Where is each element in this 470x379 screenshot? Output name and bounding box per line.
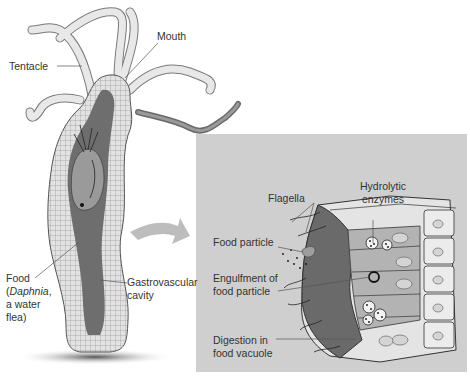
label-hydrolytic-enzymes: Hydrolytic enzymes (360, 180, 406, 206)
label-food-particle: Food particle (213, 236, 274, 248)
hydra-body (48, 75, 132, 352)
label-engulfment: Engulfment of food particle (213, 272, 278, 298)
hydra-digestion-figure: Tentacle Mouth Food (Daphnia, a water fl… (0, 0, 470, 379)
label-food: Food (Daphnia, a water flea) (6, 272, 52, 324)
label-gastrovascular-cavity: Gastrovascular cavity (127, 276, 198, 302)
label-tentacle: Tentacle (9, 60, 48, 72)
label-mouth: Mouth (157, 30, 186, 42)
gastrodermis-cells (282, 196, 456, 362)
tentacles (30, 12, 238, 131)
label-digestion: Digestion in food vacuole (213, 334, 273, 360)
label-flagella: Flagella (268, 192, 305, 204)
zoom-arrow-icon (130, 218, 190, 244)
